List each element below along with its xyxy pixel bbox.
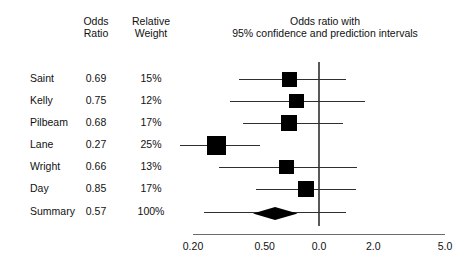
x-axis-tick-label: 0.50 — [235, 240, 295, 252]
study-effect-marker — [289, 94, 303, 108]
study-relative-weight: 13% — [119, 160, 183, 172]
study-name: Day — [30, 182, 49, 194]
summary-odds-ratio: 0.57 — [66, 205, 126, 217]
study-name: Saint — [30, 72, 54, 84]
study-name: Kelly — [30, 94, 53, 106]
study-odds-ratio: 0.27 — [66, 138, 126, 150]
column-header-relative-weight: Relative Weight — [119, 16, 183, 39]
forest-plot: Odds Ratio Relative Weight Odds ratio wi… — [0, 0, 475, 266]
study-name: Wright — [30, 160, 60, 172]
study-relative-weight: 12% — [119, 94, 183, 106]
study-relative-weight: 17% — [119, 182, 183, 194]
study-relative-weight: 15% — [119, 72, 183, 84]
x-axis-tick-label: 2.0 — [343, 240, 403, 252]
summary-relative-weight: 100% — [119, 205, 183, 217]
study-effect-marker — [281, 115, 297, 131]
summary-diamond — [253, 206, 298, 219]
study-relative-weight: 17% — [119, 116, 183, 128]
study-odds-ratio: 0.66 — [66, 160, 126, 172]
x-axis-tick-label: 5.0 — [415, 240, 475, 252]
chart-title: Odds ratio with 95% confidence and predi… — [200, 16, 450, 40]
x-axis-tick-label: 0.20 — [163, 240, 223, 252]
study-odds-ratio: 0.69 — [66, 72, 126, 84]
study-relative-weight: 25% — [119, 138, 183, 150]
study-effect-marker — [279, 160, 293, 174]
study-odds-ratio: 0.85 — [66, 182, 126, 194]
study-effect-marker — [298, 181, 314, 197]
x-axis-tick-label: 0.0 — [289, 240, 349, 252]
study-odds-ratio: 0.75 — [66, 94, 126, 106]
study-effect-marker — [282, 72, 297, 87]
study-name: Pilbeam — [30, 116, 68, 128]
column-header-odds-ratio: Odds Ratio — [66, 16, 126, 39]
study-odds-ratio: 0.68 — [66, 116, 126, 128]
study-name: Lane — [30, 138, 53, 150]
reference-line-icon — [318, 62, 319, 226]
study-effect-marker — [207, 136, 226, 155]
axis-line — [193, 234, 445, 235]
